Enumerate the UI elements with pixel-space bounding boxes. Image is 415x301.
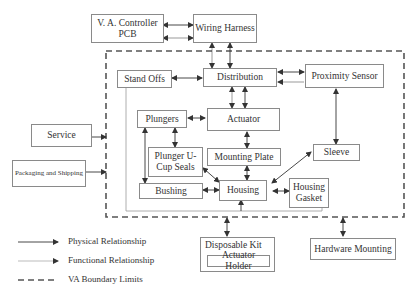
node-hardware-mounting: Hardware Mounting	[310, 238, 396, 260]
node-wiring-harness: Wiring Harness	[193, 14, 257, 43]
legend-physical-label: Physical Relationship	[68, 236, 146, 246]
node-bushing: Bushing	[139, 183, 203, 199]
legend-boundary-label: VA Boundary Limits	[68, 274, 143, 284]
node-housing-gasket: Housing Gasket	[289, 178, 329, 208]
node-distribution: Distribution	[203, 68, 277, 87]
node-housing: Housing	[219, 180, 267, 201]
node-service: Service	[31, 124, 92, 147]
node-actuator-holder: Actuator Holder	[207, 255, 270, 267]
node-plungers: Plungers	[137, 110, 187, 128]
node-stand-offs: Stand Offs	[117, 70, 172, 88]
node-actuator: Actuator	[207, 108, 280, 131]
node-plunger-ucup-seals: Plunger U-Cup Seals	[148, 147, 203, 177]
node-sleeve: Sleeve	[313, 144, 360, 161]
legend-functional-label: Functional Relationship	[68, 255, 154, 265]
node-disposable-kit: Disposable Kit Actuator Holder	[200, 237, 275, 272]
node-packaging-and-shipping: Packaging and Shipping	[12, 160, 86, 187]
node-mounting-plate: Mounting Plate	[207, 148, 281, 166]
node-va-controller-pcb: V. A. Controller PCB	[91, 14, 164, 43]
node-proximity-sensor: Proximity Sensor	[305, 64, 384, 88]
